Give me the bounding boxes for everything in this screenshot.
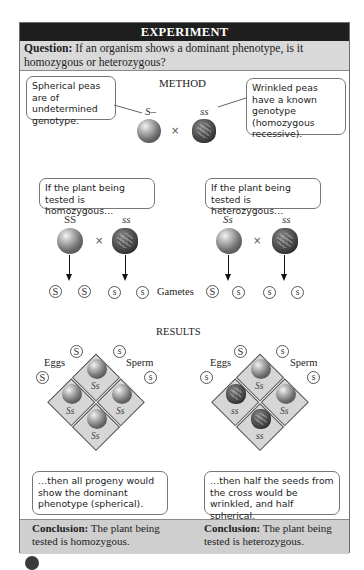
cross-symbol: × — [171, 125, 179, 136]
spherical-pea-icon — [57, 228, 83, 254]
gamete-S: S — [78, 285, 91, 298]
method-genotype-spherical: S– — [145, 105, 156, 117]
conclusion-band: Conclusion: The plant being tested is ho… — [20, 519, 349, 554]
offspring-genotype: Ss — [280, 406, 288, 416]
spherical-pea-icon — [87, 359, 107, 379]
method-genotype-wrinkled: ss — [200, 105, 209, 117]
homozygous-case-callout: If the plant being tested is homozygous… — [39, 178, 155, 209]
gamete-s: s — [291, 286, 304, 299]
wrinkled-pea-icon — [251, 409, 271, 429]
eggs-label: Eggs — [44, 357, 65, 368]
heterozygous-case-callout: If the plant being tested is heterozygou… — [205, 178, 321, 209]
offspring-genotype: ss — [231, 406, 238, 416]
arrow-down-icon — [228, 255, 229, 275]
spherical-pea-icon — [87, 409, 107, 429]
arrow-down-icon — [284, 255, 285, 275]
spherical-pea-icon — [112, 384, 132, 404]
heterozygous-parent2-genotype: ss — [282, 213, 291, 225]
gamete-S: S — [206, 285, 219, 298]
conclusion-label: Conclusion: — [32, 522, 88, 534]
question-label: Question: — [24, 42, 72, 55]
sperm-gamete-s: s — [144, 371, 157, 384]
spherical-pea-icon — [276, 384, 296, 404]
cross-symbol: × — [95, 235, 103, 246]
offspring-genotype: Ss — [91, 381, 99, 391]
spherical-pea-icon — [251, 359, 271, 379]
offspring-genotype: ss — [256, 431, 263, 441]
wrinkled-pea-icon — [272, 228, 298, 254]
gamete-s: s — [108, 286, 121, 299]
arrow-down-icon — [69, 255, 70, 275]
offspring-genotype: Ss — [255, 381, 263, 391]
wrinkled-pea-icon — [226, 384, 246, 404]
cross-symbol: × — [253, 235, 261, 246]
offspring-genotype: Ss — [66, 406, 74, 416]
conclusion-label: Conclusion: — [204, 522, 260, 534]
page-marker-icon — [25, 556, 39, 570]
gamete-s: s — [136, 286, 149, 299]
experiment-figure: EXPERIMENT Question: If an organism show… — [19, 22, 350, 553]
sperm-label: Sperm — [126, 357, 153, 368]
callout-pointer-left — [114, 101, 144, 117]
sperm-label: Sperm — [290, 357, 317, 368]
wrinkled-pea-icon — [192, 119, 216, 143]
gamete-s: s — [232, 286, 245, 299]
sperm-gamete-s: s — [276, 345, 289, 358]
spherical-pea-icon — [216, 228, 242, 254]
spherical-pea-icon — [62, 384, 82, 404]
offspring-genotype: Ss — [91, 431, 99, 441]
conclusion-homozygous: Conclusion: The plant being tested is ho… — [32, 522, 182, 548]
method-title: METHOD — [159, 77, 206, 89]
sperm-gamete-s: s — [113, 345, 126, 358]
offspring-genotype: Ss — [116, 406, 124, 416]
egg-gamete-S: S — [234, 345, 247, 358]
egg-gamete-S: S — [70, 345, 83, 358]
callout-pointer-right — [216, 95, 248, 111]
sperm-gamete-s: s — [307, 371, 320, 384]
wrinkled-callout: Wrinkled peas have a known genotype (hom… — [246, 78, 346, 135]
arrow-down-icon — [125, 255, 126, 275]
gamete-s: s — [263, 286, 276, 299]
homozygous-parent1-genotype: SS — [64, 213, 76, 225]
spherical-pea-icon — [137, 119, 161, 143]
homozygous-parent2-genotype: ss — [122, 213, 131, 225]
egg-gamete-S: S — [36, 371, 49, 384]
conclusion-heterozygous: Conclusion: The plant being tested is he… — [204, 522, 354, 548]
results-title: RESULTS — [156, 326, 201, 337]
wrinkled-pea-icon — [112, 228, 138, 254]
gametes-label: Gametes — [157, 286, 194, 297]
gamete-S: S — [49, 285, 62, 298]
heterozygous-parent1-genotype: Ss — [223, 213, 233, 225]
egg-gamete-s: s — [200, 371, 213, 384]
homozygous-result-callout: …then all progeny would show the dominan… — [32, 471, 168, 515]
figure-title: EXPERIMENT — [20, 23, 349, 41]
heterozygous-result-callout: …then half the seeds from the cross woul… — [204, 471, 340, 515]
question-band: Question: If an organism shows a dominan… — [20, 41, 349, 71]
spherical-callout: Spherical peas are of undetermined genot… — [26, 76, 116, 120]
eggs-label: Eggs — [210, 357, 231, 368]
